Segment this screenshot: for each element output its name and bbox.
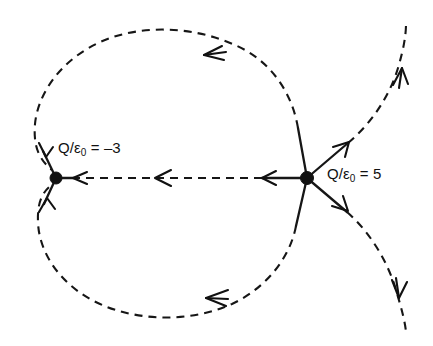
field-line-upper-right-escape [307,24,408,178]
negative-charge-label-equals: = [87,139,104,156]
positive-charge-label-value: 5 [373,165,381,182]
positive-charge-label-subscript: 0 [350,173,356,184]
positive-charge-label-epsilon: ε [343,165,350,182]
lower-right-escape-arrowhead-tail [396,278,399,298]
negative-charge-label: Q/ε0 = –3 [58,140,121,155]
upper-loop-entry-arrowhead [39,143,53,157]
positive-charge-label: Q/ε0 = 5 [327,166,381,181]
upper-right-path [348,24,406,143]
negative-charge-label-value: –3 [104,139,121,156]
field-line-lower-loop [38,178,307,318]
field-line-lower-right-escape [307,178,407,332]
lower-loop-stub-positive [296,178,307,226]
lower-loop-path [38,184,296,318]
positive-charge-label-equals: = [356,165,373,182]
upper-loop-stub-positive [298,128,307,178]
lower-right-path [347,212,406,332]
positive-charge-dot [301,172,314,185]
field-line-middle-straight [56,170,307,186]
negative-charge-label-subscript: 0 [81,147,87,158]
positive-charge-label-prefix: Q/ [327,165,343,182]
field-line-figure: Q/ε0 = –3 Q/ε0 = 5 [0,0,433,346]
negative-charge-dot [50,172,62,184]
negative-charge-label-epsilon: ε [74,139,81,156]
negative-charge-label-prefix: Q/ [58,139,74,156]
lower-right-stub [307,178,347,212]
lower-loop-arrowhead-tail [206,298,228,299]
lower-right-stub-arrowhead [332,196,348,211]
